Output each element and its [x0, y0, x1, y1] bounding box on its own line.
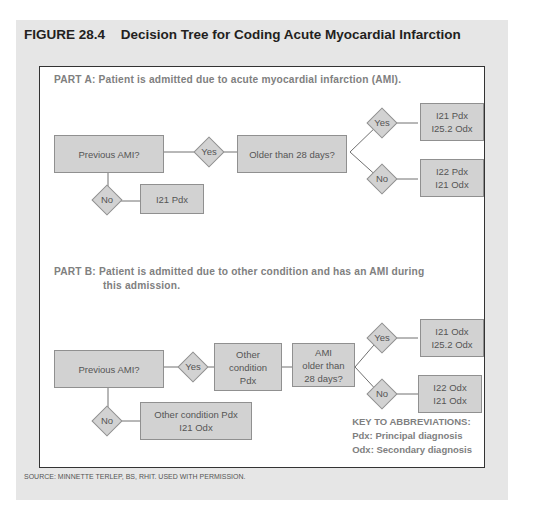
part-b-no-result: Other condition Pdx I21 Odx [140, 402, 252, 440]
figure-title: FIGURE 28.4 Decision Tree for Coding Acu… [24, 27, 461, 42]
part-b-previous-ami-box: Previous AMI? [54, 350, 164, 388]
part-b-yes-label: Yes [178, 361, 208, 372]
part-a-no-result: I21 Pdx [140, 184, 204, 214]
part-a-yes-no-result: I22 Pdx I21 Odx [420, 159, 484, 197]
part-a-yes-no-label: No [367, 173, 397, 184]
part-b-heading-2: this admission. [103, 280, 180, 291]
part-b-no-label: No [92, 415, 122, 426]
abbreviation-key: KEY TO ABBREVIATIONS: Pdx: Principal dia… [352, 415, 472, 457]
part-a-heading: PART A: Patient is admitted due to acute… [54, 74, 401, 85]
part-a-previous-ami-box: Previous AMI? [54, 135, 164, 173]
part-b-yes-no-result: I22 Odx I21 Odx [418, 375, 482, 413]
figure-title-text: Decision Tree for Coding Acute Myocardia… [121, 27, 461, 42]
part-a-older-box: Older than 28 days? [237, 135, 347, 173]
part-a-yes-yes-result: I21 Pdx I25.2 Odx [420, 103, 484, 141]
key-pdx: Pdx: Principal diagnosis [352, 429, 472, 443]
part-b-heading-1: PART B: Patient is admitted due to other… [54, 266, 424, 277]
part-b-yes-no-label: No [367, 388, 397, 399]
part-b-other-condition-box: Other condition Pdx [214, 343, 282, 391]
part-b-ami-older-box: AMI older than 28 days? [292, 343, 355, 387]
part-a-no-label: No [92, 194, 122, 205]
part-a-yes-label: Yes [194, 146, 224, 157]
figure: FIGURE 28.4 Decision Tree for Coding Acu… [16, 20, 508, 500]
diagram-panel: PART A: Patient is admitted due to acute… [39, 66, 485, 468]
part-b-yes-yes-result: I21 Odx I25.2 Odx [420, 319, 484, 357]
key-odx: Odx: Secondary diagnosis [352, 443, 472, 457]
key-title: KEY TO ABBREVIATIONS: [352, 415, 472, 429]
part-b-yes-yes-label: Yes [367, 332, 397, 343]
part-a-yes-yes-label: Yes [367, 117, 397, 128]
source-credit: SOURCE: MINNETTE TERLEP, BS, RHIT. USED … [24, 473, 245, 480]
figure-number: FIGURE 28.4 [24, 27, 105, 42]
